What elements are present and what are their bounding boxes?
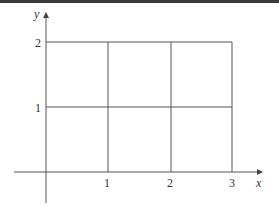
y-tick-1: 1 [35,101,41,115]
y-tick-2: 2 [35,36,41,50]
x-tick-1: 1 [104,176,110,190]
x-axis-label: x [255,176,262,190]
coordinate-grid-diagram: y x 2 1 1 2 3 [0,0,279,207]
x-tick-2: 2 [167,176,173,190]
x-tick-3: 3 [229,176,235,190]
y-axis-label: y [33,7,40,21]
